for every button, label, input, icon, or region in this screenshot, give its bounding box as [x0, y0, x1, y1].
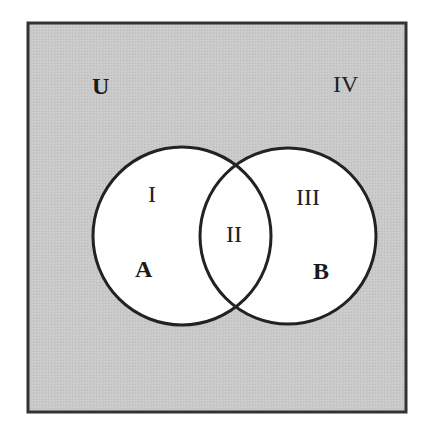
region-ii-label: II: [226, 221, 242, 247]
region-i-label: I: [148, 181, 156, 207]
set-b-label: B: [313, 258, 329, 284]
set-a-label: A: [135, 256, 153, 282]
region-iii-label: III: [296, 184, 320, 210]
region-iv-label: IV: [333, 71, 359, 97]
venn-diagram: U IV I II III A B: [0, 0, 431, 441]
universe-label: U: [92, 73, 109, 99]
